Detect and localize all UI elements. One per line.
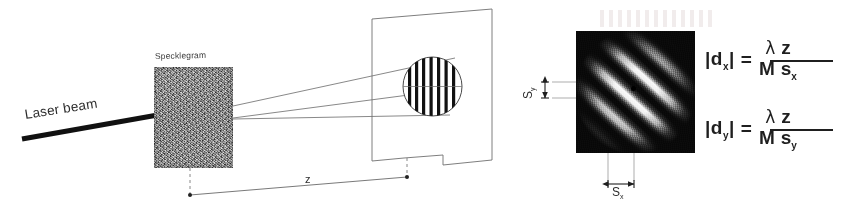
dy-z: z (781, 107, 791, 128)
specklegram-label: Specklegram (155, 51, 206, 61)
dx-z: z (781, 38, 791, 59)
equation-dx: |dx| = λ z M sx (705, 38, 800, 82)
dx-denominator: M sx (756, 59, 800, 83)
dx-s-subscript: x (791, 70, 797, 81)
sx-base: S (612, 185, 620, 199)
sy-subscript: y (529, 87, 536, 91)
dy-s-subscript: y (791, 139, 797, 150)
dy-base: d (711, 117, 723, 138)
dx-lambda: λ (765, 39, 775, 57)
dy-abs-close: | (729, 117, 735, 138)
dy-m: M (759, 128, 775, 149)
specklegram-plate (154, 67, 233, 168)
dx-base: d (711, 48, 723, 69)
photo-grain-overlay (576, 31, 695, 153)
screen-fringe-circle (403, 55, 462, 119)
dy-equals: = (741, 118, 752, 140)
dx-s-base: s (781, 58, 792, 79)
dy-s-base: s (781, 127, 792, 148)
dx-numerator: λ z (762, 38, 794, 59)
specklegram-figure: Laser beam Specklegram z Sy Sx |dx| = λ … (0, 0, 844, 218)
ghost-text-bleedthrough (600, 10, 712, 27)
dx-equals: = (741, 49, 752, 71)
dx-lhs: |dx| (705, 48, 735, 72)
dx-abs-close: | (729, 48, 735, 69)
dy-lambda: λ (765, 108, 775, 126)
dx-m: M (759, 59, 775, 80)
dy-s: sy (781, 128, 797, 152)
z-distance-label: z (305, 174, 311, 185)
dy-lhs: |dy| (705, 117, 735, 141)
dx-fraction: λ z M sx (756, 38, 800, 82)
dy-numerator: λ z (762, 107, 794, 128)
dy-denominator: M sy (756, 128, 800, 152)
equation-dy: |dy| = λ z M sy (705, 107, 800, 151)
sx-spacing-label: Sx (612, 186, 624, 200)
young-fringe-photograph (576, 31, 695, 153)
sy-spacing-label: Sy (522, 87, 536, 99)
sx-subscript: x (620, 193, 624, 200)
sy-base: S (521, 91, 535, 99)
dx-s: sx (781, 59, 797, 83)
dy-fraction: λ z M sy (756, 107, 800, 151)
fringe-center-dot (631, 86, 636, 91)
